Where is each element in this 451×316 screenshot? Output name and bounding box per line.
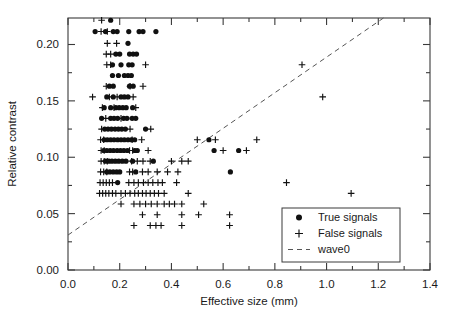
false-signal-point: [173, 179, 180, 186]
false-signal-point: [139, 169, 146, 176]
false-signal-point: [100, 136, 107, 143]
false-signal-point: [147, 126, 154, 133]
true-signal-point: [129, 73, 134, 78]
false-signal-point: [195, 211, 202, 218]
true-signal-point: [228, 169, 233, 174]
true-signal-point: [134, 51, 139, 56]
false-signal-point: [140, 83, 147, 90]
false-signal-point: [220, 147, 227, 154]
false-signal-point: [178, 158, 185, 165]
true-signal-point: [133, 116, 138, 121]
false-signal-point: [178, 201, 185, 208]
y-tick-label: 0.20: [37, 38, 59, 50]
false-signal-point: [138, 136, 145, 143]
false-signal-point: [159, 179, 166, 186]
false-signal-point: [175, 169, 182, 176]
true-signal-point: [115, 29, 120, 34]
false-signal-point: [147, 222, 154, 229]
false-signal-point: [164, 169, 171, 176]
false-signal-point: [226, 222, 233, 229]
false-signal-point: [140, 158, 147, 165]
false-signal-point: [131, 222, 138, 229]
false-signal-point: [194, 136, 201, 143]
false-signal-point: [145, 169, 152, 176]
true-signal-point: [206, 137, 211, 142]
false-signal-point: [319, 94, 326, 101]
true-signal-point: [130, 62, 135, 67]
false-signal-point: [212, 136, 219, 143]
true-signal-point: [143, 126, 148, 131]
scatter-plot: 0.00.20.40.60.81.01.21.40.000.050.100.15…: [0, 0, 451, 316]
x-tick-label: 0.4: [163, 278, 180, 290]
false-signal-point: [127, 126, 134, 133]
x-tick-label: 1.4: [422, 278, 439, 290]
false-signal-point: [89, 94, 96, 101]
true-signal-point: [93, 29, 98, 34]
chart-canvas: 0.00.20.40.60.81.01.21.40.000.050.100.15…: [0, 0, 451, 316]
false-signal-point: [168, 158, 175, 165]
false-signal-point: [113, 40, 120, 47]
true-signal-point: [110, 73, 115, 78]
true-signal-point: [124, 105, 129, 110]
true-signal-point: [140, 29, 145, 34]
false-signal-point: [348, 190, 355, 197]
y-tick-label: 0.15: [37, 95, 59, 107]
false-signal-point: [107, 51, 114, 58]
true-signal-point: [111, 84, 116, 89]
true-signal-point: [153, 29, 158, 34]
false-signal-point: [118, 201, 125, 208]
false-signal-point: [185, 158, 192, 165]
false-signal-point: [109, 179, 116, 186]
true-signal-point: [116, 73, 121, 78]
false-signal-point: [154, 211, 161, 218]
x-tick-label: 0.2: [112, 278, 128, 290]
false-signal-point: [283, 179, 290, 186]
x-tick-label: 0.8: [267, 278, 283, 290]
false-signal-point: [131, 201, 138, 208]
false-signal-point: [243, 147, 250, 154]
false-signal-point: [158, 222, 165, 229]
legend-label-1: False signals: [318, 227, 383, 239]
x-tick-label: 1.2: [370, 278, 386, 290]
false-signal-point: [154, 201, 161, 208]
true-signal-point: [117, 51, 122, 56]
true-signal-point: [211, 148, 216, 153]
true-signal-point: [118, 62, 123, 67]
false-signal-point: [161, 190, 168, 197]
false-signal-point: [226, 211, 233, 218]
false-signal-point: [130, 94, 137, 101]
false-signal-point: [128, 158, 135, 165]
x-axis-title: Effective size (mm): [200, 295, 298, 307]
true-signal-point: [125, 94, 130, 99]
false-signal-point: [139, 211, 146, 218]
false-signal-point: [155, 190, 162, 197]
false-signal-point: [142, 61, 149, 68]
false-signal-point: [98, 28, 105, 35]
true-signal-point: [117, 169, 122, 174]
y-tick-label: 0.10: [37, 151, 59, 163]
false-signal-point: [253, 136, 260, 143]
true-signal-point: [125, 41, 130, 46]
false-signal-point: [299, 61, 306, 68]
true-signal-point: [108, 18, 113, 23]
false-signal-point: [102, 115, 109, 122]
legend-true-marker: [296, 215, 302, 221]
false-signal-point: [154, 169, 161, 176]
true-signal-point: [124, 116, 129, 121]
false-signal-point: [114, 94, 121, 101]
false-signal-point: [134, 158, 141, 165]
legend-label-2: wave0: [317, 243, 350, 255]
y-tick-label: 0.05: [37, 208, 59, 220]
true-signal-point: [236, 148, 241, 153]
true-signal-point: [126, 29, 131, 34]
false-signal-point: [137, 201, 144, 208]
y-tick-label: 0.00: [37, 264, 59, 276]
x-tick-label: 1.0: [319, 278, 335, 290]
false-signal-point: [104, 40, 111, 47]
false-signal-point: [178, 222, 185, 229]
false-signal-point: [185, 190, 192, 197]
false-signal-point: [145, 147, 152, 154]
false-signal-point: [148, 201, 155, 208]
legend-label-0: True signals: [318, 211, 378, 223]
y-axis-title: Relative contrast: [6, 100, 18, 186]
